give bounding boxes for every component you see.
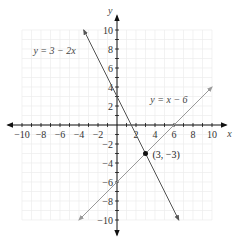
y-tick-label: 6 [108, 63, 113, 74]
y-tick-label: 2 [108, 101, 113, 112]
coordinate-plane: −10−8−6−4−2246810−10−8−6−4−2246810xyy = … [0, 0, 233, 237]
y-tick-label: 8 [108, 44, 113, 55]
line-1-label: y = 3 − 2x [32, 45, 76, 56]
x-tick-label: 6 [172, 129, 177, 140]
y-tick-label: −10 [97, 215, 113, 226]
y-axis-label: y [107, 5, 113, 16]
x-tick-label: −8 [36, 129, 47, 140]
x-tick-label: 4 [153, 129, 158, 140]
line-2-label: y = x − 6 [149, 94, 187, 105]
intersection-label: (3, −3) [153, 149, 180, 161]
x-tick-label: −6 [55, 129, 66, 140]
x-tick-label: 8 [191, 129, 196, 140]
x-tick-label: −4 [74, 129, 85, 140]
y-tick-label: −2 [102, 139, 113, 150]
y-tick-label: 10 [103, 25, 113, 36]
x-tick-label: −10 [14, 129, 30, 140]
x-tick-label: 10 [207, 129, 217, 140]
intersection-point [143, 151, 148, 156]
y-tick-label: −8 [102, 196, 113, 207]
x-axis-label: x [226, 128, 232, 139]
y-tick-label: −4 [102, 158, 113, 169]
y-tick-label: −6 [102, 177, 113, 188]
